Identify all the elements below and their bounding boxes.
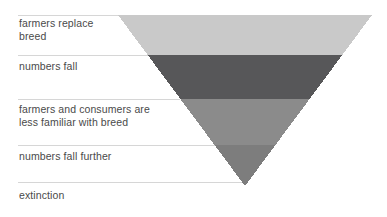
separator-line-2 <box>18 99 180 100</box>
stage-label-2: farmers and consumers are less familiar … <box>19 103 150 129</box>
separator-line-4 <box>18 182 242 183</box>
stage-label-1: numbers fall <box>19 60 77 73</box>
separator-line-0 <box>18 15 118 16</box>
funnel-diagram: farmers replace breednumbers fallfarmers… <box>0 0 387 217</box>
funnel-band-3 <box>215 145 276 186</box>
separator-line-1 <box>18 55 148 56</box>
funnel-band-0 <box>118 15 372 55</box>
funnel-band-1 <box>148 55 343 99</box>
stage-label-0: farmers replace breed <box>19 17 93 43</box>
stage-label-4: extinction <box>19 189 64 202</box>
stage-label-3: numbers fall further <box>19 150 111 163</box>
separator-line-3 <box>18 145 215 146</box>
funnel-band-2 <box>180 99 309 145</box>
